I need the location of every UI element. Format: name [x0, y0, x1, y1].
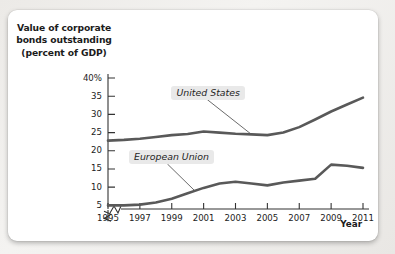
x-tick-label-2003: 2003: [220, 213, 252, 223]
x-tick-label-1995: 1995: [92, 213, 124, 223]
x-tick-label-2005: 2005: [251, 213, 283, 223]
x-tick-label-2007: 2007: [283, 213, 315, 223]
x-tick-label-2001: 2001: [188, 213, 220, 223]
x-tick-label-1999: 1999: [156, 213, 188, 223]
y-tick-label-5: 5: [54, 200, 102, 210]
y-tick-label-30: 30: [54, 109, 102, 119]
series-label-united-states: United States: [171, 86, 244, 101]
y-tick-label-35: 35: [54, 91, 102, 101]
y-tick-label-15: 15: [54, 163, 102, 173]
figure-card: Value of corporate bonds outstanding (pe…: [8, 10, 378, 241]
x-axis-title: Year: [340, 219, 362, 229]
series-label-european-union: European Union: [129, 150, 214, 165]
y-tick-label-25: 25: [54, 127, 102, 137]
y-tick-label-20: 20: [54, 145, 102, 155]
y-tick-label-40: 40%: [54, 73, 102, 83]
y-tick-label-10: 10: [54, 182, 102, 192]
x-tick-label-1997: 1997: [124, 213, 156, 223]
chart-leader-lines: [167, 100, 251, 191]
